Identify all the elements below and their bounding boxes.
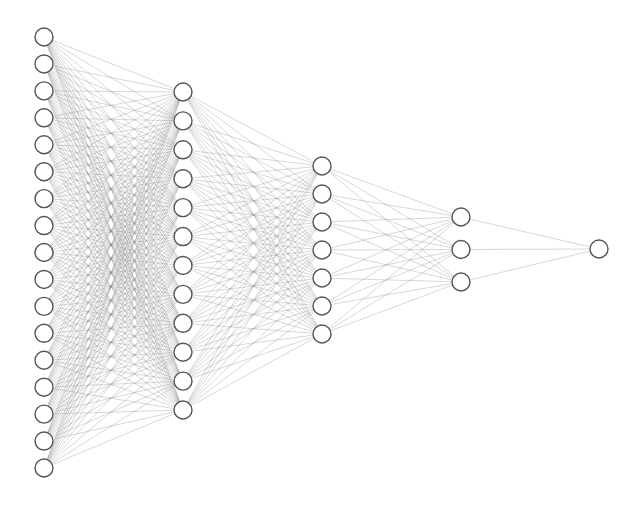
edge <box>183 150 322 194</box>
hidden-layer-1-node <box>174 285 192 303</box>
hidden-layer-2-node <box>313 325 331 343</box>
edge <box>183 222 322 237</box>
edge <box>183 222 322 410</box>
edge <box>183 306 322 410</box>
edge <box>322 217 461 222</box>
edge <box>183 222 322 323</box>
edge <box>183 121 322 222</box>
edge <box>183 150 322 222</box>
edge <box>322 217 461 334</box>
edge <box>322 217 461 306</box>
edge <box>183 222 322 294</box>
hidden-layer-1-node <box>174 314 192 332</box>
edge <box>44 64 183 237</box>
input-layer-node <box>35 217 53 235</box>
edge <box>183 250 322 410</box>
edge <box>183 222 322 381</box>
hidden-layer-1-node <box>174 141 192 159</box>
edge <box>183 150 322 334</box>
edge <box>322 250 461 282</box>
edge <box>183 150 322 250</box>
input-layer-node <box>35 405 53 423</box>
edge <box>44 91 183 410</box>
edge <box>322 250 461 251</box>
hidden-layer-2-node <box>313 185 331 203</box>
edge <box>461 249 599 282</box>
edge <box>322 222 461 282</box>
hidden-layer-3-node <box>452 273 470 291</box>
edge <box>183 121 322 194</box>
edge <box>322 282 461 334</box>
edge <box>183 92 322 166</box>
input-layer-node <box>35 136 53 154</box>
hidden-layer-1-node <box>174 372 192 390</box>
edge <box>44 145 183 352</box>
edge <box>44 91 183 92</box>
edge <box>44 121 183 441</box>
edge <box>183 237 322 306</box>
edge <box>183 194 322 208</box>
edge <box>183 306 322 323</box>
edge <box>44 226 183 382</box>
edge <box>183 278 322 381</box>
input-layer-node <box>35 270 53 288</box>
edge <box>183 278 322 294</box>
edge <box>322 166 461 250</box>
input-layer-node <box>35 55 53 73</box>
input-layer-node <box>35 324 53 342</box>
edge <box>183 306 322 381</box>
neural-network-diagram <box>0 0 639 508</box>
hidden-layer-2-node <box>313 213 331 231</box>
edge <box>322 250 461 307</box>
input-layer-node <box>35 28 53 46</box>
edge <box>183 121 322 166</box>
edge <box>183 208 322 222</box>
input-layer-node <box>35 244 53 262</box>
edge <box>183 278 322 323</box>
edge <box>44 37 183 208</box>
input-layer-node <box>35 109 53 127</box>
edge <box>183 166 322 410</box>
edge <box>183 278 322 410</box>
edge <box>183 179 322 334</box>
hidden-layer-2-node <box>313 297 331 315</box>
edge <box>322 250 461 335</box>
edge <box>322 278 461 282</box>
edge <box>44 279 183 352</box>
output-layer-node <box>590 240 608 258</box>
input-layer-node <box>35 378 53 396</box>
input-layer-node <box>35 190 53 208</box>
input-layer-node <box>35 163 53 181</box>
edge <box>183 237 322 334</box>
edge <box>183 92 322 194</box>
hidden-layer-1-node <box>174 83 192 101</box>
edge <box>183 150 322 306</box>
edge <box>44 410 183 468</box>
input-layer-node <box>35 297 53 315</box>
hidden-layer-1-node <box>174 170 192 188</box>
edge <box>44 92 183 118</box>
input-layer-node <box>35 459 53 477</box>
hidden-layer-3-node <box>452 241 470 259</box>
hidden-layer-2-node <box>313 241 331 259</box>
edge <box>322 166 461 282</box>
hidden-layer-1-node <box>174 343 192 361</box>
edge <box>183 237 322 250</box>
hidden-layer-2-node <box>313 269 331 287</box>
edge <box>44 64 183 92</box>
hidden-layer-1-node <box>174 256 192 274</box>
hidden-layer-1-node <box>174 199 192 217</box>
input-layer-node <box>35 351 53 369</box>
input-layer-node <box>35 432 53 450</box>
edge <box>322 166 461 217</box>
edge <box>183 250 322 381</box>
edge <box>322 282 461 306</box>
hidden-layer-3-node <box>452 208 470 226</box>
edge <box>322 194 461 217</box>
hidden-layer-1-node <box>174 228 192 246</box>
input-layer-node <box>35 82 53 100</box>
edge <box>183 150 322 166</box>
hidden-layer-2-node <box>313 157 331 175</box>
edge <box>183 194 322 294</box>
hidden-layer-1-node <box>174 401 192 419</box>
